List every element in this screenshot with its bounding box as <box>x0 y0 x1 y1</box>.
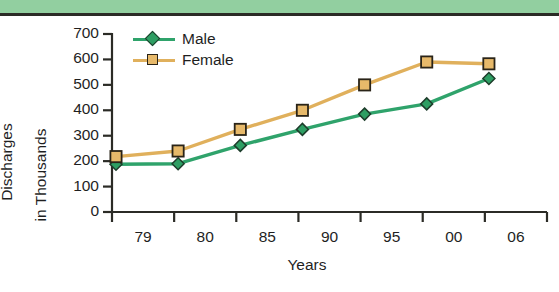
chart-page: 0100200300400500600700 79808590950006 Di… <box>0 0 559 292</box>
data-series <box>110 56 495 170</box>
chart-legend: Male Female <box>133 28 234 70</box>
y-tick-label: 700 <box>53 24 99 42</box>
y-axis-title-line1: Discharges <box>0 123 15 201</box>
line-chart: 0100200300400500600700 79808590950006 Di… <box>0 16 559 292</box>
x-tick-label: 00 <box>432 228 476 246</box>
x-tick-label: 95 <box>370 228 414 246</box>
legend-item-female: Female <box>133 49 234 70</box>
x-tick-label: 85 <box>245 228 289 246</box>
x-tick-label: 80 <box>183 228 227 246</box>
y-axis-title-line2: in Thousands <box>32 80 49 270</box>
diamond-marker-icon <box>145 30 161 46</box>
square-marker-icon <box>147 54 158 65</box>
x-axis-title: Years <box>0 256 559 274</box>
legend-item-male: Male <box>133 28 234 49</box>
legend-label-male: Male <box>182 29 216 49</box>
legend-key-male <box>133 29 175 49</box>
x-tick-label: 90 <box>308 228 352 246</box>
x-tick-label: 79 <box>121 228 165 246</box>
top-decorative-band <box>0 0 559 13</box>
y-tick-label: 600 <box>53 49 99 67</box>
y-axis-title: Discharges in Thousands <box>0 80 83 270</box>
legend-label-female: Female <box>182 50 234 70</box>
x-tick-label: 06 <box>494 228 538 246</box>
legend-key-female <box>133 50 175 70</box>
